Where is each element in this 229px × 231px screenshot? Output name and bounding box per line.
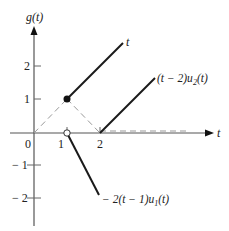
curve-shift2: [100, 78, 155, 133]
solid-curves: [67, 43, 155, 195]
chart-canvas: g(t) t 0 1 2 2 1 − 1 − 2 t (t − 2)u2(t) …: [0, 0, 229, 231]
y-axis-arrow-icon: [31, 26, 38, 35]
tick-label-ym2: − 2: [12, 191, 28, 205]
open-point-marker: [64, 130, 70, 136]
dashed-lines: [34, 99, 187, 133]
tick-label-origin: 0: [25, 137, 31, 151]
dashed-ramp-down: [67, 99, 100, 133]
y-axis-label: g(t): [26, 10, 43, 24]
x-axis-label: t: [217, 126, 221, 140]
x-axis-arrow-icon: [205, 130, 214, 137]
tick-label-ym1: − 1: [12, 158, 28, 172]
curve-label-neg: − 2(t − 1)u1(t): [102, 193, 169, 208]
tick-label-x1: 1: [58, 137, 64, 151]
tick-label-x2: 2: [97, 137, 103, 151]
curve-neg: [67, 133, 99, 195]
tick-label-y1: 1: [24, 92, 30, 106]
curve-label-t: t: [126, 35, 130, 49]
dashed-ramp-up: [34, 99, 67, 133]
tick-label-y2: 2: [24, 59, 30, 73]
curve-label-shift2: (t − 2)u2(t): [157, 72, 208, 87]
curve-t: [67, 43, 123, 99]
filled-point-marker: [64, 96, 71, 103]
